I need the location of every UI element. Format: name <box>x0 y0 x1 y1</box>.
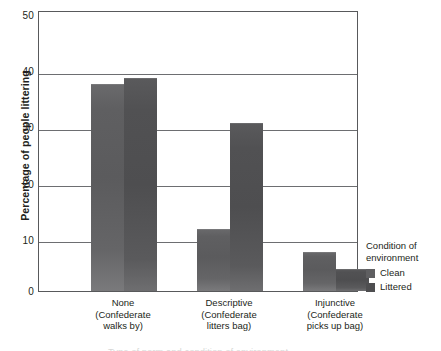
legend: Condition of environment Clean Littered <box>366 240 441 292</box>
bar-group-injunctive <box>303 12 369 291</box>
y-axis-title: Percentage of people littering <box>20 46 31 246</box>
x-axis-labels: None (Confederate walks by) Descriptive … <box>38 297 358 347</box>
bar-injunctive-littered <box>336 269 369 291</box>
y-tick-50: 50 <box>4 11 34 21</box>
legend-title-line2: environment <box>366 252 418 263</box>
bar-descriptive-clean <box>197 229 230 291</box>
legend-item-littered: Littered <box>366 282 441 292</box>
x-label-none-main: None <box>63 297 183 309</box>
cropped-caption: Type of norm and condition of environmen… <box>38 346 358 351</box>
x-label-none-sub2: walks by) <box>63 320 183 332</box>
x-label-injunctive-main: Injunctive <box>275 297 395 309</box>
bar-chart-figure: 50 40 30 20 10 0 Percentage of people li… <box>0 0 441 351</box>
bar-group-descriptive <box>197 12 263 291</box>
legend-title: Condition of environment <box>366 240 441 263</box>
legend-swatch-littered-icon <box>366 283 375 292</box>
legend-title-line1: Condition of <box>366 240 417 251</box>
legend-label-clean: Clean <box>380 268 405 278</box>
legend-swatch-clean-icon <box>366 269 375 278</box>
legend-item-clean: Clean <box>366 268 441 278</box>
bar-none-clean <box>91 84 124 291</box>
x-label-injunctive: Injunctive (Confederate picks up bag) <box>275 297 395 332</box>
bar-descriptive-littered <box>230 123 263 291</box>
x-label-none-sub1: (Confederate <box>63 309 183 321</box>
x-label-descriptive-sub1: (Confederate <box>169 309 289 321</box>
x-label-none: None (Confederate walks by) <box>63 297 183 332</box>
x-label-descriptive-sub2: litters bag) <box>169 320 289 332</box>
bar-none-littered <box>124 78 157 291</box>
plot-area <box>38 11 358 292</box>
x-label-descriptive: Descriptive (Confederate litters bag) <box>169 297 289 332</box>
bar-injunctive-clean <box>303 252 336 291</box>
y-tick-0: 0 <box>4 287 34 297</box>
bar-group-none <box>91 12 157 291</box>
legend-label-littered: Littered <box>380 282 412 292</box>
x-label-injunctive-sub1: (Confederate <box>275 309 395 321</box>
x-label-descriptive-main: Descriptive <box>169 297 289 309</box>
x-label-injunctive-sub2: picks up bag) <box>275 320 395 332</box>
